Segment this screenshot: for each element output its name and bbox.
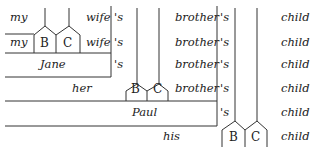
word-child: child: [281, 10, 310, 24]
word-brother: brother: [175, 81, 221, 95]
word-brother: brother: [175, 10, 221, 24]
word-s: 's: [220, 10, 229, 24]
word-s: 's: [114, 35, 123, 49]
word-his: his: [163, 129, 180, 143]
word-child: child: [281, 35, 310, 49]
label-c: C: [153, 82, 162, 96]
possessive-diagram: my wife 's brother 's child my B C wife …: [0, 0, 316, 152]
label-b: B: [40, 36, 49, 50]
word-s: 's: [114, 10, 123, 24]
word-s: 's: [220, 81, 229, 95]
label-b: B: [229, 130, 238, 144]
word-my: my: [10, 35, 28, 49]
word-brother: brother: [175, 35, 221, 49]
word-s: 's: [220, 57, 229, 71]
word-child: child: [281, 129, 310, 143]
word-s: 's: [114, 57, 123, 71]
word-paul: Paul: [131, 105, 157, 119]
word-s: 's: [220, 105, 229, 119]
word-jane: Jane: [38, 57, 66, 71]
word-child: child: [281, 81, 310, 95]
word-s: 's: [220, 35, 229, 49]
label-c: C: [63, 36, 72, 50]
word-her: her: [72, 81, 93, 95]
word-child: child: [281, 105, 310, 119]
word-child: child: [281, 57, 310, 71]
word-wife: wife: [86, 35, 111, 49]
label-c: C: [251, 130, 260, 144]
word-my: my: [10, 10, 28, 24]
word-brother: brother: [175, 57, 221, 71]
word-wife: wife: [86, 10, 111, 24]
label-b: B: [131, 82, 140, 96]
bc-pentagons-group-3: [222, 8, 267, 147]
